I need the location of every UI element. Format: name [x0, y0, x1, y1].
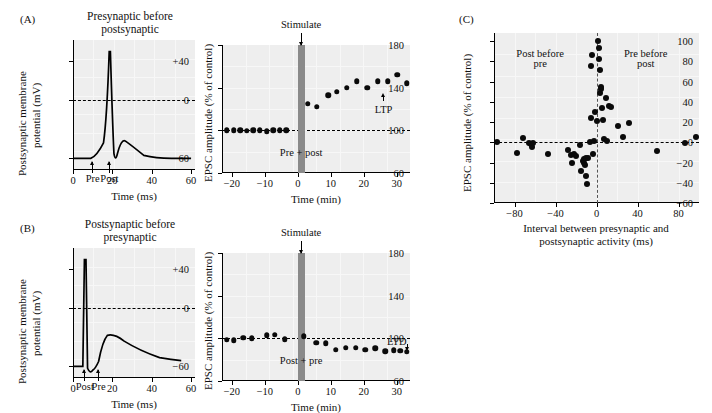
- data-point: [589, 52, 595, 58]
- panel-a-title: Presynaptic before postsynaptic: [55, 10, 205, 36]
- axis-tick-label: 30: [392, 178, 403, 189]
- axis-tick-label: −80: [506, 208, 522, 219]
- axis-tick-label: −10: [257, 386, 273, 397]
- axis-tick: [397, 173, 398, 177]
- axis-tick-label: 0: [594, 208, 599, 219]
- marker-label-pre: Pre: [92, 381, 106, 392]
- annotation-stimulate: Stimulate: [281, 19, 321, 30]
- data-point: [597, 67, 603, 73]
- data-point: [594, 118, 600, 124]
- axis-tick-label: 60: [683, 76, 694, 87]
- data-point: [282, 337, 288, 343]
- panel-a-label: (A): [20, 13, 35, 25]
- axis-tick: [490, 102, 494, 103]
- data-point: [277, 128, 283, 134]
- data-point: [603, 95, 609, 101]
- data-point: [520, 135, 526, 141]
- axis-tick-label: 60: [394, 376, 405, 387]
- data-point: [244, 128, 250, 134]
- data-point: [582, 162, 588, 168]
- ltp-arrowhead: [381, 93, 385, 97]
- axis-tick-label: 60: [186, 175, 197, 186]
- annotation-pre-before-post-line2: post: [637, 58, 655, 69]
- axis-tick: [298, 381, 299, 385]
- data-point: [224, 337, 230, 343]
- marker-label-post: Post: [100, 173, 118, 184]
- panel-b-title-line2: presynaptic: [103, 231, 156, 243]
- data-point: [237, 128, 243, 134]
- data-point: [270, 128, 276, 134]
- axis-tick-label: −20: [677, 157, 693, 168]
- panel-b-chart-ylabel: EPSC amplitude (% of control): [202, 252, 214, 390]
- panel-b-label: (B): [20, 222, 35, 234]
- axis-tick-label: 20: [359, 386, 370, 397]
- data-point: [264, 332, 270, 338]
- axis-tick-label: 0: [295, 386, 300, 397]
- axis-tick-label: 30: [392, 386, 403, 397]
- panel-b-ltd-plot: 60100140180−20−100102030StimulatePost + …: [222, 253, 410, 381]
- data-point: [592, 109, 598, 115]
- gridline: [222, 66, 410, 67]
- axis-y-line: [494, 33, 495, 203]
- data-point: [604, 138, 610, 144]
- data-point: [615, 123, 621, 129]
- axis-tick: [397, 381, 398, 385]
- axis-tick-label: 0: [70, 175, 75, 186]
- data-point: [343, 345, 349, 351]
- data-point: [404, 81, 410, 87]
- data-point: [333, 347, 339, 353]
- gridline: [222, 274, 410, 275]
- panel-a-title-line1: Presynaptic before: [87, 10, 173, 22]
- data-point: [224, 128, 230, 134]
- axis-tick: [490, 183, 494, 184]
- axis-tick: [191, 378, 192, 382]
- data-point: [385, 79, 391, 85]
- panel-a-trace-xlabel: Time (ms): [73, 190, 195, 202]
- data-point: [284, 128, 290, 134]
- axis-tick: [490, 61, 494, 62]
- data-point: [545, 151, 551, 157]
- axis-tick: [152, 378, 153, 382]
- ltd-arrowhead: [405, 347, 409, 351]
- data-point: [231, 128, 237, 134]
- annotation-post-before-pre-line2: pre: [533, 58, 546, 69]
- panel-a-chart-xlabel: Time (min): [222, 193, 410, 205]
- data-point: [323, 340, 329, 346]
- data-point: [620, 134, 626, 140]
- data-point: [354, 79, 360, 85]
- axis-tick-label: 40: [632, 208, 643, 219]
- data-point: [391, 347, 397, 353]
- axis-tick-label: 40: [146, 383, 157, 394]
- data-point: [314, 104, 320, 110]
- data-point: [344, 85, 350, 91]
- marker-arrowhead: [90, 161, 94, 165]
- axis-tick: [515, 203, 516, 207]
- axis-tick-label: −20: [224, 178, 240, 189]
- panel-b-trace-ylabel-line1: Postsynaptic membrane: [16, 279, 28, 384]
- marker-arrowhead: [82, 369, 86, 373]
- axis-x-line: [222, 172, 410, 173]
- data-point: [257, 128, 263, 134]
- gridline: [222, 317, 410, 318]
- axis-tick: [490, 122, 494, 123]
- axis-x-line: [222, 380, 410, 381]
- gridline: [222, 296, 410, 297]
- data-point: [383, 348, 389, 354]
- axis-tick: [112, 378, 113, 382]
- axis-tick: [218, 173, 222, 174]
- axis-tick-label: 20: [107, 383, 118, 394]
- panel-a-ltp-plot: 60100140180−20−100102030StimulatePre + p…: [222, 45, 410, 173]
- axis-tick: [218, 338, 222, 339]
- panel-c-stdp-plot: −60−40−20020406080100−80−4004080Post bef…: [494, 33, 699, 203]
- axis-y-line: [222, 253, 223, 381]
- data-point: [251, 128, 257, 134]
- axis-tick-label: 0: [295, 178, 300, 189]
- marker-arrowhead: [96, 369, 100, 373]
- axis-tick-label: 140: [388, 82, 404, 93]
- data-point: [595, 38, 601, 44]
- axis-tick: [490, 41, 494, 42]
- data-point: [591, 138, 597, 144]
- data-point: [353, 345, 359, 351]
- axis-tick-label: 60: [394, 168, 405, 179]
- axis-tick-label: 140: [388, 290, 404, 301]
